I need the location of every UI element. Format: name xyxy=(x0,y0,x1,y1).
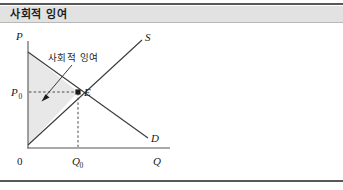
bottom-divider-rule xyxy=(0,180,343,182)
equilibrium-price-label-subscript: 0 xyxy=(19,92,23,101)
demand-curve-label: D xyxy=(150,132,159,144)
page-title: 사회적 잉여 xyxy=(10,7,67,22)
producer-surplus-region xyxy=(28,92,78,145)
quantity-axis-label: Q xyxy=(153,155,161,167)
supply-demand-chart: P Q 0 P 0 Q 0 S D E 사회적 잉여 xyxy=(0,24,343,178)
surplus-annotation: 사회적 잉여 xyxy=(48,52,98,63)
figure-root: 사회적 잉여 P Q 0 P 0 Q 0 S xyxy=(0,0,343,190)
equilibrium-point-label: E xyxy=(83,86,91,98)
supply-curve-label: S xyxy=(145,31,151,43)
equilibrium-quantity-label-subscript: 0 xyxy=(80,161,84,170)
equilibrium-point-marker xyxy=(75,89,80,94)
origin-label: 0 xyxy=(17,155,23,167)
top-divider-rule xyxy=(0,3,343,5)
price-axis-label: P xyxy=(15,30,23,42)
equilibrium-price-label: P xyxy=(10,86,18,98)
